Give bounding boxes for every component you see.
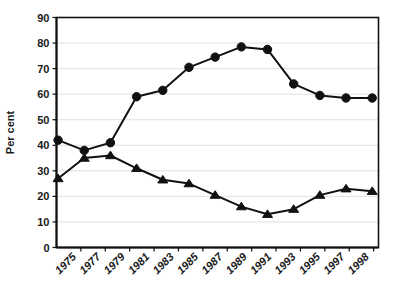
chart-canvas: 0102030405060708090 19751977197919811983… [0,0,394,297]
data-point-circle [185,63,193,71]
y-tick-label: 70 [37,63,49,75]
data-point-circle [54,136,62,144]
data-point-circle [237,43,245,51]
data-point-circle [159,86,167,94]
line-chart: 0102030405060708090 19751977197919811983… [0,0,394,297]
data-point-circle [368,94,376,102]
data-point-circle [132,93,140,101]
y-tick-label: 0 [43,242,49,254]
data-point-circle [106,139,114,147]
data-point-circle [316,91,324,99]
y-tick-label: 60 [37,88,49,100]
data-point-circle [263,45,271,53]
y-axis-title: Per cent [4,110,16,154]
y-tick-label: 10 [37,216,49,228]
y-tick-label: 50 [37,114,49,126]
y-tick-label: 20 [37,190,49,202]
y-tick-label: 30 [37,165,49,177]
y-tick-label: 80 [37,37,49,49]
data-point-circle [342,94,350,102]
y-tick-label: 40 [37,139,49,151]
data-point-circle [211,53,219,61]
data-point-circle [289,80,297,88]
y-tick-label: 90 [37,12,49,24]
y-axis-title-group: Per cent [4,110,16,154]
